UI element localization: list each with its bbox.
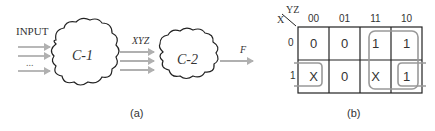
input-arrows: [18, 47, 50, 71]
kmap-cell: 0: [298, 27, 329, 60]
kmap-cell: 1: [391, 27, 422, 60]
xyz-label: XYZ: [132, 35, 149, 46]
kmap-col-header: 00: [298, 13, 329, 24]
kmap-cell: 1: [391, 60, 422, 93]
kmap-col-header: 11: [360, 13, 391, 24]
kmap-cell: 0: [329, 60, 360, 93]
caption-a: (a): [130, 107, 143, 119]
input-ellipsis: ...: [26, 57, 34, 68]
kmap-cell: X: [360, 60, 391, 93]
kmap-row-header: 1: [290, 70, 296, 81]
kmap-col-header: 10: [391, 13, 422, 24]
kmap-row-variable: X: [277, 14, 284, 25]
kmap-row-header: 0: [288, 37, 294, 48]
kmap-col-header: 01: [329, 13, 360, 24]
kmap-cell: 1: [360, 27, 391, 60]
kmap-cell: 0: [329, 27, 360, 60]
xyz-arrows: [120, 52, 154, 70]
output-f-label: F: [240, 44, 246, 55]
kmap-cell: X: [298, 60, 329, 93]
block-c2-label: C-2: [177, 52, 198, 68]
input-label: INPUT: [16, 25, 48, 37]
block-c1-label: C-1: [72, 48, 93, 64]
caption-b: (b): [347, 107, 360, 119]
